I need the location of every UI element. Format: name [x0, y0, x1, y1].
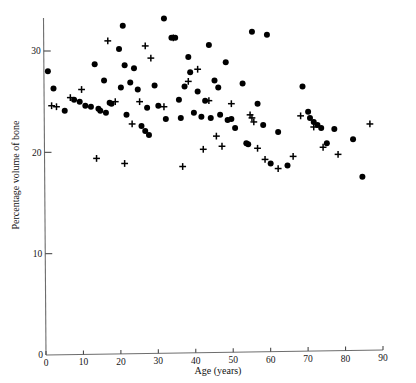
data-point-circle [88, 104, 94, 110]
data-point-circle [97, 108, 103, 114]
y-axis-line [44, 18, 47, 355]
data-point-plus [185, 78, 192, 85]
data-point-plus [142, 43, 149, 50]
data-point-plus [366, 121, 373, 128]
data-point-circle [187, 69, 193, 75]
data-point-plus [290, 153, 297, 160]
data-point-circle [275, 129, 281, 135]
x-tick-label-30: 30 [154, 356, 164, 366]
data-point-plus [179, 163, 186, 170]
data-point-circle [245, 141, 251, 147]
data-point-plus [121, 160, 128, 167]
data-point-circle [161, 16, 167, 22]
data-point-plus [213, 133, 220, 140]
x-tick-label-80: 80 [341, 354, 351, 364]
data-point-circle [299, 83, 305, 89]
data-point-plus [262, 156, 269, 163]
data-point-circle [103, 110, 109, 116]
tick-labels-group: 01020304050607080900102030 [31, 46, 388, 368]
data-point-circle [118, 84, 124, 90]
data-point-circle [228, 116, 234, 122]
data-point-circle [318, 125, 324, 131]
data-point-circle [45, 68, 51, 74]
data-point-plus [136, 98, 143, 105]
x-axis-title: Age (years) [195, 365, 242, 377]
data-point-circle [223, 59, 229, 65]
data-point-circle [217, 112, 223, 118]
data-point-plus [297, 112, 304, 119]
x-tick-label-90: 90 [378, 353, 388, 363]
data-point-circle [163, 116, 169, 122]
data-point-circle [77, 99, 83, 105]
data-point-circle [135, 87, 141, 93]
data-point-circle [206, 42, 212, 48]
data-point-circle [144, 105, 150, 111]
data-point-circle [131, 65, 137, 71]
data-point-plus [335, 151, 342, 158]
data-point-circle [176, 97, 182, 103]
data-point-circle [92, 61, 98, 67]
x-tick-label-70: 70 [303, 354, 313, 364]
data-point-circle [255, 101, 261, 107]
data-point-circle [116, 46, 122, 52]
data-point-plus [104, 37, 111, 44]
data-point-circle [359, 174, 365, 180]
x-tick-label-50: 50 [228, 355, 238, 365]
data-point-circle [195, 89, 201, 95]
x-tick-label-0: 0 [44, 358, 49, 368]
data-point-circle [198, 114, 204, 120]
y-tick-label-20: 20 [32, 148, 42, 158]
data-point-circle [82, 103, 88, 109]
x-tick-label-10: 10 [79, 357, 89, 367]
data-point-circle [62, 108, 68, 114]
y-tick-label-10: 10 [33, 249, 43, 259]
x-axis-line [46, 350, 383, 355]
data-point-circle [264, 32, 270, 38]
x-tick-label-60: 60 [266, 355, 276, 365]
data-point-circle [178, 115, 184, 121]
data-point-plus [129, 121, 136, 128]
data-point-circle [120, 23, 126, 29]
data-point-circle [185, 54, 191, 60]
data-point-plus [147, 55, 154, 62]
x-tick-label-20: 20 [116, 357, 126, 367]
data-point-plus [275, 165, 282, 172]
data-point-circle [182, 83, 188, 89]
data-point-circle [191, 110, 197, 116]
data-point-circle [285, 163, 291, 169]
data-point-circle [305, 109, 311, 115]
data-points-group [45, 16, 373, 180]
y-tick-label-30: 30 [31, 46, 41, 56]
data-point-plus [219, 143, 226, 150]
data-point-circle [124, 112, 130, 118]
data-point-circle [50, 85, 56, 91]
y-axis-title: Percentage volume of bone [10, 120, 21, 230]
data-point-plus [194, 66, 201, 73]
data-point-plus [161, 103, 168, 110]
data-point-circle [101, 77, 107, 83]
data-point-circle [122, 62, 128, 68]
axes-group [44, 18, 384, 355]
data-point-plus [93, 155, 100, 162]
data-point-circle [350, 136, 356, 142]
scatter-plot-figure: 01020304050607080900102030 Age (years) P… [0, 0, 416, 383]
data-point-circle [240, 80, 246, 86]
data-point-plus [78, 86, 85, 93]
data-point-circle [138, 123, 144, 129]
data-point-circle [146, 132, 152, 138]
data-point-circle [152, 82, 158, 88]
data-point-plus [228, 100, 235, 107]
data-point-circle [155, 103, 161, 109]
data-point-circle [331, 126, 337, 132]
y-tick-label-0: 0 [38, 350, 43, 360]
data-point-circle [324, 140, 330, 146]
data-point-plus [200, 146, 207, 153]
data-point-circle [208, 115, 214, 121]
data-point-plus [53, 103, 60, 110]
data-point-circle [215, 84, 221, 90]
ticks-group [44, 51, 383, 355]
data-point-circle [268, 160, 274, 166]
data-point-circle [232, 125, 238, 131]
plot-canvas: 01020304050607080900102030 Age (years) P… [0, 0, 416, 383]
data-point-plus [254, 145, 261, 152]
